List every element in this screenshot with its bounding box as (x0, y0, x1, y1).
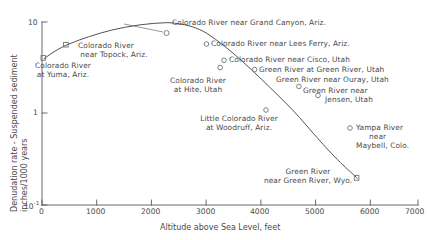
y-tick-label-1: 1 (33, 108, 38, 117)
point-label-jensen-line2: Jensen, Utah (325, 96, 373, 105)
point-label-green-river-wyo-line2: near Green River, Wyo. (258, 177, 358, 186)
point-label-woodruff-line2: at Woodruff, Ariz. (189, 124, 289, 133)
point-label-yampa-line3: Maybell, Colo. (356, 142, 409, 151)
x-tick-label-1000: 1000 (86, 207, 105, 216)
marker-cisco (222, 58, 227, 63)
x-tick-label-7000: 7000 (405, 207, 424, 216)
x-tick-label-3000: 3000 (196, 207, 215, 216)
y-tick-label-0.1: 10-1 (24, 200, 39, 211)
leader-line-grand-canyon (124, 24, 163, 32)
marker-green-river-utah (252, 67, 257, 72)
x-tick-label-5000: 5000 (305, 207, 324, 216)
x-tick-label-2000: 2000 (141, 207, 160, 216)
point-label-green-river-utah: Green River at Green River, Utah (259, 66, 384, 75)
x-tick-label-0: 0 (39, 207, 44, 216)
marker-woodruff (264, 108, 269, 113)
point-label-ouray: Green River near Ouray, Utah (276, 76, 389, 85)
x-axis-title: Altitude above Sea Level, feet (160, 223, 280, 232)
marker-yampa (348, 126, 353, 131)
point-label-yuma-line2: at Yuma, Ariz. (17, 71, 109, 80)
x-tick-label-6000: 6000 (360, 207, 379, 216)
point-label-topock-line2: near Topock, Ariz. (68, 51, 160, 60)
y-tick-label-10: 10 (28, 18, 38, 27)
y-tick-exponent: -1 (34, 200, 40, 206)
x-tick-label-4000: 4000 (250, 207, 269, 216)
denudation-rate-chart: Denudation rate - Suspended sediment inc… (0, 0, 429, 240)
marker-grand-canyon (164, 31, 169, 36)
marker-ouray (297, 84, 302, 89)
point-label-hite-line2: at Hite, Utah (152, 86, 244, 95)
point-label-cisco: Colorado River near Cisco, Utah (229, 56, 350, 65)
point-label-lees-ferry: Colorado River near Lees Ferry, Ariz. (211, 40, 350, 49)
marker-lees-ferry (204, 42, 209, 47)
marker-hite (218, 65, 223, 70)
point-label-grand-canyon: Colorado River near Grand Canyon, Ariz. (172, 19, 326, 28)
